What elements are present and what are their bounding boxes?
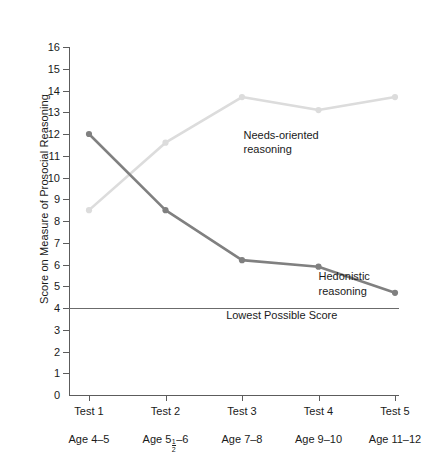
y-tick-label-12: 12 xyxy=(48,129,60,140)
data-point-s1-1 xyxy=(86,131,92,137)
x-tick-label-1: Test 1 xyxy=(74,405,103,417)
y-tick-label-6: 6 xyxy=(54,259,60,270)
y-tick-label-1: 1 xyxy=(54,368,60,379)
y-tick-label-4: 4 xyxy=(54,303,60,314)
y-tick-label-7: 7 xyxy=(54,237,60,248)
data-point-s2-1 xyxy=(86,207,92,213)
y-tick-label-8: 8 xyxy=(54,216,60,227)
data-point-s1-5 xyxy=(392,290,398,296)
data-point-s2-4 xyxy=(315,107,321,113)
y-tick-label-16: 16 xyxy=(48,42,60,53)
x-age-label-3: Age 7–8 xyxy=(222,433,263,445)
x-age-label-4: Age 9–10 xyxy=(295,433,342,445)
x-age-label-2: Age 512–6 xyxy=(143,433,189,453)
needs-oriented-label-line-2: reasoning xyxy=(244,142,319,156)
x-tick-label-3: Test 3 xyxy=(227,405,256,417)
x-tick-5 xyxy=(395,395,396,401)
x-tick-4 xyxy=(319,395,320,401)
x-axis-line xyxy=(69,395,399,396)
x-tick-label-5: Test 5 xyxy=(380,405,409,417)
y-tick-label-10: 10 xyxy=(48,172,60,183)
y-tick-label-11: 11 xyxy=(49,150,60,161)
plot-area: 012345678910111213141516 Test 1Age 4–5Te… xyxy=(69,47,399,395)
data-point-s2-2 xyxy=(162,140,168,146)
x-age-label-5: Age 11–12 xyxy=(369,433,421,445)
y-tick-label-9: 9 xyxy=(54,194,60,205)
x-age-label-1: Age 4–5 xyxy=(69,433,110,445)
x-tick-2 xyxy=(166,395,167,401)
series-line-2 xyxy=(89,97,395,210)
y-tick-label-13: 13 xyxy=(48,107,60,118)
x-tick-label-2: Test 2 xyxy=(151,405,180,417)
x-tick-1 xyxy=(89,395,90,401)
needs-oriented-label-line-1: Needs-oriented xyxy=(244,128,319,142)
y-tick-label-3: 3 xyxy=(54,324,60,335)
y-tick-label-0: 0 xyxy=(54,390,60,401)
data-point-s2-3 xyxy=(239,94,245,100)
data-point-s2-5 xyxy=(392,94,398,100)
y-tick-label-5: 5 xyxy=(54,281,60,292)
data-point-s1-2 xyxy=(162,207,168,213)
series-layer xyxy=(69,47,399,395)
hedonistic-label-line-2: reasoning xyxy=(319,284,370,298)
y-tick-label-15: 15 xyxy=(48,63,60,74)
x-tick-label-4: Test 4 xyxy=(304,405,333,417)
needs-oriented-label: Needs-orientedreasoning xyxy=(244,128,319,156)
x-tick-3 xyxy=(242,395,243,401)
y-tick-label-14: 14 xyxy=(48,85,60,96)
prosocial-reasoning-line-chart: Score on Measure of Prosocial Reasoning … xyxy=(0,0,446,459)
hedonistic-label-line-1: Hedonistic xyxy=(319,269,370,283)
y-tick-label-2: 2 xyxy=(54,346,60,357)
data-point-s1-3 xyxy=(239,257,245,263)
hedonistic-label: Hedonisticreasoning xyxy=(319,269,370,297)
